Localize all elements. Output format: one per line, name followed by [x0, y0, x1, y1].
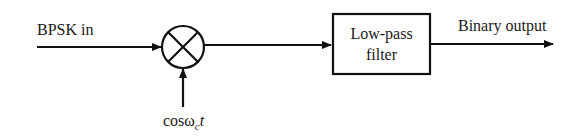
bpsk-demodulator-diagram: BPSK in cosωct Low-pass filter Binary ou…	[0, 0, 579, 137]
output-label: Binary output	[458, 17, 547, 35]
reference-label: cosωct	[163, 112, 205, 132]
filter-label-line2: filter	[366, 46, 398, 63]
low-pass-filter-block	[333, 14, 430, 74]
filter-label-line1: Low-pass	[350, 25, 412, 43]
circle-x-multiplier-icon	[162, 26, 204, 68]
input-label: BPSK in	[37, 21, 93, 38]
